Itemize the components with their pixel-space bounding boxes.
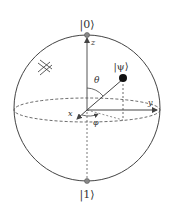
state-vector — [87, 79, 123, 110]
psi-label: |ψ⟩ — [113, 61, 128, 73]
ket0-label: |0⟩ — [80, 18, 95, 32]
north-pole-dot — [85, 33, 90, 38]
z-axis-label: z — [90, 38, 96, 47]
x-axis-label: x — [68, 109, 73, 118]
x-axis — [77, 110, 87, 119]
phi-label: φ — [93, 118, 99, 127]
y-axis-label: y — [147, 98, 153, 107]
bloch-sphere-diagram: |0⟩ |1⟩ |ψ⟩ z y x θ φ — [0, 0, 171, 211]
south-pole-dot — [85, 179, 90, 184]
ket1-label: |1⟩ — [80, 188, 95, 202]
theta-label: θ — [94, 75, 100, 85]
state-point — [119, 74, 127, 82]
hatch-mark-icon — [38, 60, 52, 75]
theta-arc — [87, 88, 103, 96]
phi-arc — [82, 114, 98, 116]
